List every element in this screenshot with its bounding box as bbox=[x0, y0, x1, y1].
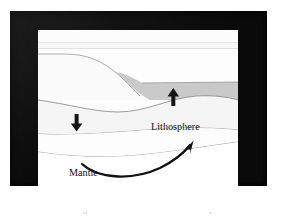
layer-thin-band bbox=[38, 43, 238, 49]
diagram-panel: Lithosphere Mantle bbox=[38, 30, 238, 186]
figure-caption-partial: illustration showing the mantle convecti… bbox=[14, 212, 276, 214]
photo-frame: Lithosphere Mantle bbox=[10, 11, 267, 186]
label-mantle: Mantle bbox=[69, 167, 98, 178]
label-lithosphere: Lithosphere bbox=[151, 121, 200, 132]
caption-strip: illustration showing the mantle convecti… bbox=[0, 212, 284, 221]
layer-top-sky bbox=[38, 30, 238, 42]
cross-section-svg: Lithosphere Mantle bbox=[38, 30, 238, 186]
scanned-page: Lithosphere Mantle illustration showing … bbox=[0, 0, 284, 221]
